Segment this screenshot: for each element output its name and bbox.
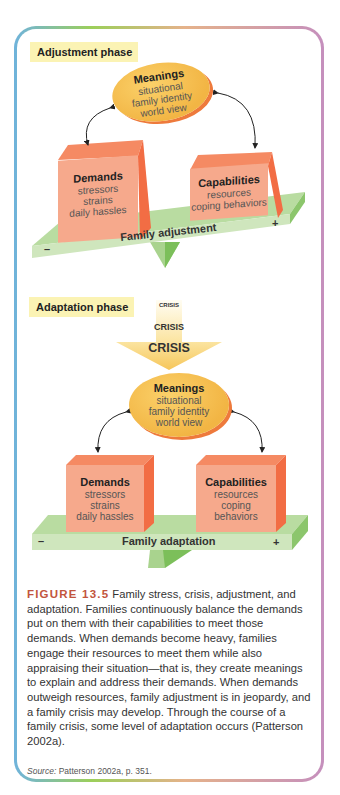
plus-sign-adaptation: + xyxy=(273,536,279,548)
source-text: Patterson 2002a, p. 351. xyxy=(56,766,151,776)
crisis-large: CRISIS xyxy=(139,341,199,355)
capabilities-box-adjustment: Capabilities resources coping behaviors xyxy=(190,163,268,220)
plank-label-adaptation: Family adaptation xyxy=(122,535,216,547)
demands-item: strains xyxy=(66,500,144,511)
demands-item: daily hassles xyxy=(66,511,144,522)
minus-sign-adaptation: – xyxy=(38,535,44,547)
capabilities-item: behaviors xyxy=(196,511,276,522)
demands-title: Demands xyxy=(66,477,144,488)
figure-number: FIGURE 13.5 xyxy=(27,588,109,600)
meanings-ellipse-adaptation: Meanings situational family identity wor… xyxy=(129,373,229,437)
capabilities-title: Capabilities xyxy=(196,477,276,488)
capabilities-item: resources xyxy=(196,489,276,500)
figure-source: Source: Patterson 2002a, p. 351. xyxy=(27,766,152,776)
plus-sign-adjustment: + xyxy=(272,217,278,229)
meanings-item: family identity xyxy=(129,406,229,417)
capabilities-box-adaptation: Capabilities resources coping behaviors xyxy=(196,465,276,532)
adjustment-phase-label: Adjustment phase xyxy=(30,42,138,62)
source-label: Source: xyxy=(27,766,56,776)
figure-caption: FIGURE 13.5 Family stress, crisis, adjus… xyxy=(27,587,312,749)
crisis-small: CRISIS xyxy=(149,302,189,308)
meanings-item: situational xyxy=(129,395,229,406)
meanings-title: Meanings xyxy=(129,383,229,394)
minus-sign-adjustment: – xyxy=(44,243,50,255)
demands-box-adaptation: Demands stressors strains daily hassles xyxy=(66,465,144,532)
capabilities-item: coping xyxy=(196,500,276,511)
meanings-item: world view xyxy=(129,417,229,428)
demands-item: stressors xyxy=(66,489,144,500)
adaptation-phase-label: Adaptation phase xyxy=(29,297,134,317)
caption-text: Family stress, crisis, adjustment, and a… xyxy=(27,588,310,747)
crisis-medium: CRISIS xyxy=(144,322,194,332)
